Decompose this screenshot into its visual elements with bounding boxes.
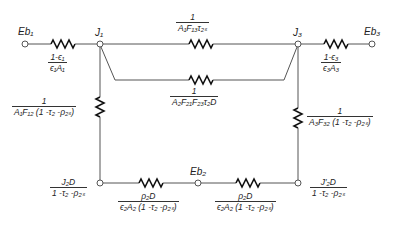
resistance-j1-j3-diffuse-den: A₂F₂₁F₂₃τ₂D (170, 96, 218, 107)
resistance-j1-j3-direct: 1 A₁F₁₃τ₂ₛ (176, 12, 209, 33)
resistance-eb2-j2d-prime-den: ϵ₂A₂ (1 -τ₂ -ρ₂ₛ) (215, 201, 276, 212)
node-j3-icon (295, 41, 301, 47)
node-j2d-icon (97, 180, 103, 186)
label-eb3: Eb₃ (364, 27, 380, 37)
resistance-eb2-j2d-prime-num: ρ₂D (236, 191, 254, 201)
resistance-surface1: 1-ϵ₁ ϵ₁A₁ (48, 52, 67, 73)
resistance-j1-j3-diffuse: 1 A₂F₂₁F₂₃τ₂D (170, 86, 218, 107)
node-j1-icon (97, 41, 103, 47)
label-eb1: Eb₁ (18, 27, 33, 37)
resistance-j1-j2d-den: A₁F₁₂ (1 -τ₂ -ρ₂ₛ) (12, 106, 76, 117)
resistor-j3-j2d-prime-icon (294, 108, 302, 128)
potential-j2d: J₂D 1 -τ₂ -ρ₂ₛ (50, 177, 87, 198)
label-eb2: Eb₂ (190, 167, 206, 177)
potential-j2d-prime-num: J′₂D (319, 177, 338, 187)
resistance-surface3-num: 1-ϵ₃ (322, 52, 341, 62)
resistor-eb2-j2d-prime-icon (236, 179, 260, 187)
resistance-j3-j2d-prime-num: 1 (335, 106, 344, 116)
node-j2d-prime-icon (295, 180, 301, 186)
resistor-j1-j3-direct-icon (189, 40, 213, 48)
resistance-j1-j3-diffuse-num: 1 (190, 86, 199, 96)
potential-j2d-den: 1 -τ₂ -ρ₂ₛ (50, 187, 87, 198)
resistance-surface3: 1-ϵ₃ ϵ₃A₃ (321, 52, 341, 73)
resistance-eb2-j2d-prime: ρ₂D ϵ₂A₂ (1 -τ₂ -ρ₂ₛ) (215, 191, 276, 212)
resistance-j1-j2d: 1 A₁F₁₂ (1 -τ₂ -ρ₂ₛ) (12, 96, 76, 117)
resistor-j1-j2d-icon (96, 97, 104, 117)
resistance-surface1-den: ϵ₁A₁ (48, 62, 67, 73)
resistor-j2d-eb2-icon (139, 179, 163, 187)
resistance-j1-j2d-num: 1 (40, 96, 49, 106)
potential-j2d-prime: J′₂D 1 -τ₂ -ρ₂ₛ (310, 177, 347, 198)
resistance-j1-j3-direct-den: A₁F₁₃τ₂ₛ (176, 22, 209, 33)
label-j1: J₁ (95, 28, 103, 38)
node-eb2-icon (195, 180, 201, 186)
resistor-j1-j3-diffuse-icon (189, 76, 213, 84)
resistance-surface1-num: 1-ϵ₁ (48, 52, 66, 62)
resistance-j2d-eb2-den: ϵ₂A₂ (1 -τ₂ -ρ₂ₛ) (118, 201, 179, 212)
resistance-j2d-eb2-num: ρ₂D (139, 191, 157, 201)
resistance-j1-j3-direct-num: 1 (188, 12, 197, 22)
resistance-j3-j2d-prime: 1 A₃F₃₂ (1 -τ₂ -ρ₂ₛ) (307, 106, 373, 127)
potential-j2d-num: J₂D (60, 177, 78, 187)
label-j3: J₃ (293, 28, 302, 38)
resistance-surface3-den: ϵ₃A₃ (321, 62, 341, 73)
node-eb1-icon (22, 41, 28, 47)
resistor-surface1-icon (51, 40, 75, 48)
node-eb3-icon (369, 41, 375, 47)
potential-j2d-prime-den: 1 -τ₂ -ρ₂ₛ (310, 187, 347, 198)
resistance-j3-j2d-prime-den: A₃F₃₂ (1 -τ₂ -ρ₂ₛ) (307, 116, 373, 127)
resistor-surface3-icon (324, 40, 348, 48)
resistance-j2d-eb2: ρ₂D ϵ₂A₂ (1 -τ₂ -ρ₂ₛ) (118, 191, 179, 212)
